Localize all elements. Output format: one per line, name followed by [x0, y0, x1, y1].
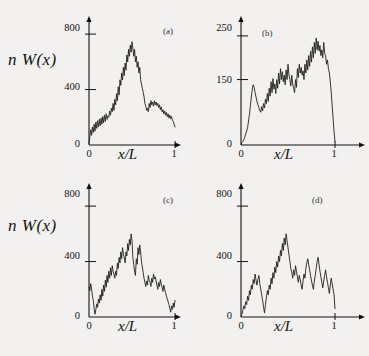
panel-d-tag: (d)	[312, 195, 323, 205]
panel-d-ytick-800: 800	[216, 188, 232, 199]
panel-c-tag: (c)	[163, 195, 173, 205]
panel-a-x-axis-title: x/L	[118, 146, 137, 163]
panel-d-xtick-1: 1	[331, 320, 336, 331]
panel-b-ytick-150: 150	[216, 74, 232, 85]
panel-d: 800 400 0 0 1 x/L (d)	[184, 178, 369, 356]
panel-c-y-axis-title: n W(x)	[8, 216, 57, 236]
panel-b-x-axis-title: x/L	[274, 146, 293, 163]
panel-d-ytick-400: 400	[216, 250, 232, 261]
panel-c-x-axis-title: x/L	[118, 318, 137, 335]
panel-a-ytick-400: 400	[64, 81, 80, 92]
panel-c-ytick-0: 0	[75, 310, 80, 321]
panel-c-xtick-0: 0	[86, 320, 91, 331]
panel-a-tag: (a)	[163, 26, 173, 36]
panel-b-ytick-0: 0	[227, 138, 232, 149]
panel-c-plot-area	[0, 178, 185, 356]
panel-b-tag: (b)	[262, 28, 273, 38]
panel-d-xtick-0: 0	[238, 320, 243, 331]
panel-d-ytick-0: 0	[227, 310, 232, 321]
figure-four-panel-plot: n W(x) 800 400 0 0 1 x/L (a) 250 150 0 0…	[0, 0, 369, 356]
panel-d-x-axis-title: x/L	[274, 318, 293, 335]
panel-a-ytick-800: 800	[64, 22, 80, 33]
panel-c-ytick-800: 800	[64, 188, 80, 199]
panel-b-xtick-0: 0	[238, 148, 243, 159]
panel-a-plot-area	[0, 0, 185, 178]
panel-a: n W(x) 800 400 0 0 1 x/L (a)	[0, 0, 185, 178]
panel-a-ytick-0: 0	[75, 138, 80, 149]
panel-c-ytick-400: 400	[64, 250, 80, 261]
panel-a-xtick-0: 0	[86, 148, 91, 159]
panel-b-xtick-1: 1	[331, 148, 336, 159]
panel-c: n W(x) 800 400 0 0 1 x/L (c)	[0, 178, 185, 356]
panel-a-y-axis-title: n W(x)	[8, 50, 57, 70]
panel-c-xtick-1: 1	[171, 320, 176, 331]
panel-b-ytick-250: 250	[216, 22, 232, 33]
panel-b: 250 150 0 0 1 x/L (b)	[184, 0, 369, 178]
panel-a-xtick-1: 1	[171, 148, 176, 159]
